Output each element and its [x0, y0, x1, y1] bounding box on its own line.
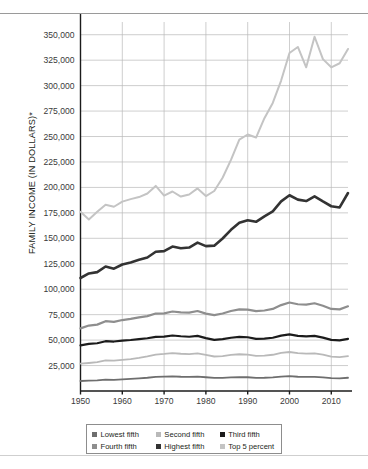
series-line-highest-fifth: [81, 193, 349, 278]
y-tick-label: 50,000: [48, 335, 75, 345]
legend-row-2: Fourth fifth Highest fifth Top 5 percent: [92, 440, 276, 452]
y-tick-label: 325,000: [43, 55, 74, 65]
data-series: [81, 37, 349, 381]
legend-item-third-fifth[interactable]: Third fifth: [220, 430, 276, 439]
series-line-top-5-percent: [81, 37, 349, 220]
x-axis-tick-labels: 1950196019701980199020002010: [71, 396, 341, 406]
series-line-second-fifth: [81, 352, 349, 364]
y-tick-label: 225,000: [43, 157, 74, 167]
y-tick-label: 150,000: [43, 233, 74, 243]
legend-item-fourth-fifth[interactable]: Fourth fifth: [92, 442, 156, 451]
legend-label-top-5-percent: Top 5 percent: [228, 442, 274, 451]
x-tick-label: 2000: [280, 396, 299, 406]
legend-swatch-top-5-percent: [220, 444, 225, 449]
legend-swatch-fourth-fifth: [92, 444, 97, 449]
x-tick-label: 1970: [155, 396, 174, 406]
y-tick-label: 275,000: [43, 106, 74, 116]
series-line-fourth-fifth: [81, 303, 349, 329]
y-tick-label: 200,000: [43, 182, 74, 192]
chart-legend: Lowest fifth Second fifth Third fifth Fo…: [86, 424, 282, 454]
legend-label-third-fifth: Third fifth: [228, 430, 260, 439]
y-tick-label: 125,000: [43, 259, 74, 269]
legend-label-highest-fifth: Highest fifth: [164, 442, 204, 451]
legend-label-lowest-fifth: Lowest fifth: [101, 430, 139, 439]
legend-swatch-highest-fifth: [156, 444, 161, 449]
y-axis-tick-labels: 25,00050,00075,000100,000125,000150,0001…: [43, 30, 74, 371]
plot-area: 25,00050,00075,000100,000125,000150,0001…: [0, 0, 368, 469]
y-tick-label: 75,000: [48, 310, 75, 320]
y-tick-label: 350,000: [43, 30, 74, 40]
x-tick-label: 1950: [71, 396, 90, 406]
legend-item-second-fifth[interactable]: Second fifth: [156, 430, 220, 439]
y-tick-label: 175,000: [43, 208, 74, 218]
y-tick-label: 100,000: [43, 284, 74, 294]
legend-label-second-fifth: Second fifth: [164, 430, 204, 439]
x-tick-label: 1960: [113, 396, 132, 406]
axis-lines: [81, 14, 353, 395]
y-tick-label: 250,000: [43, 132, 74, 142]
x-tick-label: 2010: [322, 396, 341, 406]
y-tick-label: 25,000: [48, 361, 75, 371]
legend-swatch-lowest-fifth: [92, 432, 97, 437]
series-line-lowest-fifth: [81, 376, 349, 381]
legend-swatch-third-fifth: [220, 432, 225, 437]
legend-label-fourth-fifth: Fourth fifth: [101, 442, 137, 451]
chart-figure: FAMILY INCOME (IN DOLLARS)* 25,00050,000…: [0, 0, 368, 469]
legend-item-lowest-fifth[interactable]: Lowest fifth: [92, 430, 156, 439]
legend-row-1: Lowest fifth Second fifth Third fifth: [92, 428, 276, 440]
legend-item-top-5-percent[interactable]: Top 5 percent: [220, 442, 276, 451]
x-tick-label: 1990: [238, 396, 257, 406]
line-chart-svg: 25,00050,00075,000100,000125,000150,0001…: [0, 0, 368, 469]
legend-swatch-second-fifth: [156, 432, 161, 437]
y-tick-label: 300,000: [43, 81, 74, 91]
legend-item-highest-fifth[interactable]: Highest fifth: [156, 442, 220, 451]
x-tick-label: 1980: [196, 396, 215, 406]
